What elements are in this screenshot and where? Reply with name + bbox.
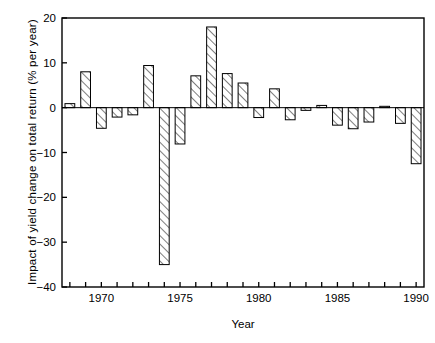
bar: [333, 108, 343, 125]
bar-series: [65, 27, 421, 265]
bar: [396, 108, 406, 124]
y-tick-label: 10: [43, 57, 56, 69]
bar: [144, 66, 154, 108]
bar: [254, 108, 264, 118]
y-tick-label: −40: [36, 281, 56, 293]
bar: [191, 76, 201, 108]
x-tick-label: 1975: [167, 292, 193, 304]
chart-figure: Impact of yield change on total return (…: [0, 0, 435, 343]
bar: [128, 108, 138, 115]
y-tick-label: −30: [36, 236, 56, 248]
bar: [222, 74, 232, 108]
x-tick-label: 1985: [325, 292, 351, 304]
y-tick-label: 20: [43, 12, 56, 24]
bar: [411, 108, 421, 164]
bar: [207, 27, 217, 108]
bar: [112, 108, 122, 117]
axis-ticks: [62, 18, 416, 287]
bar: [238, 83, 248, 108]
bar: [175, 108, 185, 144]
bar: [348, 108, 358, 129]
y-tick-label: −10: [36, 147, 56, 159]
bar: [270, 89, 280, 108]
x-tick-label: 1970: [89, 292, 115, 304]
y-tick-label: −20: [36, 191, 56, 203]
axis-lines: [62, 18, 424, 287]
bar: [159, 108, 169, 265]
x-tick-label: 1990: [403, 292, 429, 304]
x-tick-label: 1980: [246, 292, 272, 304]
bar: [364, 108, 374, 122]
plot-area: [0, 0, 435, 343]
bar: [81, 72, 91, 108]
bar: [96, 108, 106, 129]
bar: [285, 108, 295, 120]
y-tick-label: 0: [50, 102, 56, 114]
